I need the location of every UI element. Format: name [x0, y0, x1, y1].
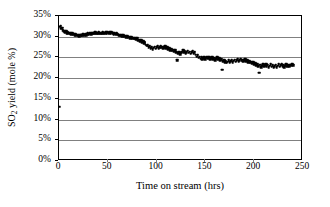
y-axis-title-text: SO2 yield (mole %) — [6, 48, 17, 127]
plot-area — [58, 15, 302, 160]
y-axis-title-pre: SO — [6, 114, 17, 127]
y-tick-label-35: 35% — [34, 10, 51, 20]
y-tick-label-25: 25% — [34, 52, 51, 62]
y-tick-label-20: 20% — [34, 72, 51, 82]
x-tick-mark-200 — [253, 159, 254, 162]
x-tick-label-0: 0 — [56, 162, 61, 172]
data-point — [292, 64, 295, 67]
y-axis-title-sub: 2 — [10, 110, 19, 114]
x-tick-label-100: 100 — [148, 162, 162, 172]
data-point — [58, 105, 61, 108]
data-point — [176, 59, 179, 62]
x-tick-mark-50 — [107, 159, 108, 162]
gridline-y-15 — [59, 99, 301, 100]
x-tick-mark-100 — [156, 159, 157, 162]
gridline-y-25 — [59, 57, 301, 58]
x-tick-label-250: 250 — [295, 162, 309, 172]
y-axis-title-post: yield (mole %) — [6, 48, 17, 110]
y-axis-title: SO2 yield (mole %) — [3, 15, 19, 160]
x-tick-label-150: 150 — [197, 162, 211, 172]
y-tick-label-10: 10% — [34, 114, 51, 124]
data-point — [221, 69, 224, 72]
y-tick-label-30: 30% — [34, 31, 51, 41]
y-tick-label-5: 5% — [38, 135, 51, 145]
x-tick-label-200: 200 — [246, 162, 260, 172]
y-tick-label-15: 15% — [34, 93, 51, 103]
gridline-y-20 — [59, 78, 301, 79]
gridline-y-5 — [59, 140, 301, 141]
data-point — [258, 71, 261, 74]
gridline-y-30 — [59, 37, 301, 38]
x-tick-label-50: 50 — [102, 162, 112, 172]
chart-container: 0%5%10%15%20%25%30%35% SO2 yield (mole %… — [0, 0, 330, 207]
x-axis-tick-labels: 050100150200250 — [0, 162, 330, 176]
gridline-y-10 — [59, 120, 301, 121]
x-axis-title: Time on stream (hrs) — [58, 180, 302, 191]
x-tick-mark-150 — [204, 159, 205, 162]
